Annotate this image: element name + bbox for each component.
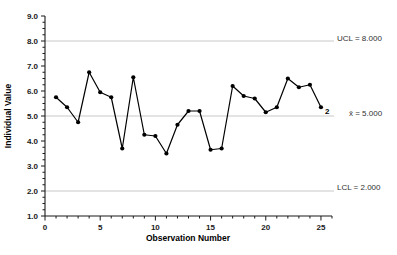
y-tick-label: 8.0 bbox=[27, 37, 39, 46]
violation-marker: 2 bbox=[325, 107, 330, 116]
x-axis-title: Observation Number bbox=[146, 233, 231, 243]
data-point bbox=[76, 120, 80, 124]
data-point bbox=[164, 151, 168, 155]
data-point bbox=[231, 84, 235, 88]
x-tick-label: 0 bbox=[43, 223, 48, 232]
data-point bbox=[264, 110, 268, 114]
data-point bbox=[54, 95, 58, 99]
data-point bbox=[109, 95, 113, 99]
y-axis-ticks bbox=[41, 16, 45, 216]
data-point bbox=[65, 105, 69, 109]
data-point bbox=[186, 109, 190, 113]
data-point bbox=[87, 70, 91, 74]
data-point bbox=[319, 105, 323, 109]
x-tick-label: 20 bbox=[261, 223, 270, 232]
chart-canvas: 1.02.03.04.05.06.07.08.09.0 0510152025 2… bbox=[0, 0, 397, 255]
y-tick-label: 7.0 bbox=[27, 62, 39, 71]
data-point bbox=[286, 76, 290, 80]
center-line-label: x̄ = 5.000 bbox=[349, 109, 383, 118]
lcl-label: LCL = 2.000 bbox=[337, 183, 381, 192]
y-axis-tick-labels: 1.02.03.04.05.06.07.08.09.0 bbox=[27, 12, 39, 221]
data-point bbox=[120, 146, 124, 150]
x-tick-label: 5 bbox=[98, 223, 103, 232]
x-axis-ticks bbox=[45, 216, 332, 221]
violation-annotations: 2 bbox=[325, 107, 330, 116]
x-tick-label: 25 bbox=[317, 223, 326, 232]
control-chart: 1.02.03.04.05.06.07.08.09.0 0510152025 2… bbox=[0, 0, 397, 255]
y-tick-label: 1.0 bbox=[27, 212, 39, 221]
y-tick-label: 6.0 bbox=[27, 87, 39, 96]
data-point bbox=[175, 123, 179, 127]
ucl-label: UCL = 8.000 bbox=[337, 34, 382, 43]
y-tick-label: 3.0 bbox=[27, 162, 39, 171]
data-point bbox=[208, 148, 212, 152]
data-point bbox=[220, 146, 224, 150]
data-point bbox=[197, 109, 201, 113]
data-point bbox=[142, 133, 146, 137]
y-axis-title: Individual Value bbox=[3, 84, 13, 149]
data-point bbox=[242, 94, 246, 98]
x-tick-label: 15 bbox=[206, 223, 215, 232]
data-point bbox=[297, 85, 301, 89]
y-tick-label: 4.0 bbox=[27, 137, 39, 146]
y-tick-label: 5.0 bbox=[27, 112, 39, 121]
data-point bbox=[131, 75, 135, 79]
data-point bbox=[253, 96, 257, 100]
data-point bbox=[275, 105, 279, 109]
y-tick-label: 9.0 bbox=[27, 12, 39, 21]
x-tick-label: 10 bbox=[151, 223, 160, 232]
data-point bbox=[308, 83, 312, 87]
data-point bbox=[98, 90, 102, 94]
y-tick-label: 2.0 bbox=[27, 187, 39, 196]
data-point bbox=[153, 134, 157, 138]
x-axis-tick-labels: 0510152025 bbox=[43, 223, 326, 232]
